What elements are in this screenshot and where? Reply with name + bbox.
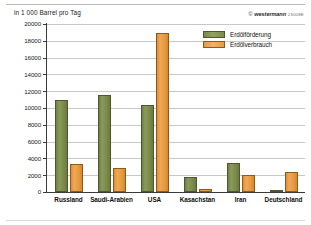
y-tick-label: 20000 xyxy=(24,20,41,27)
x-axis-category-labels: RusslandSaudi-ArabienUSAKasachstanIranDe… xyxy=(47,196,305,212)
x-axis-label: Deutschland xyxy=(262,196,305,203)
x-axis-label: Iran xyxy=(219,196,262,203)
bar-production[interactable] xyxy=(184,177,197,192)
gridline xyxy=(47,142,305,143)
x-axis-label: Saudi-Arabien xyxy=(90,196,133,203)
y-tick-label: 6000 xyxy=(28,138,41,145)
bottom-divider xyxy=(6,220,305,221)
bar-group xyxy=(141,24,169,192)
x-axis-label: Kasachstan xyxy=(176,196,219,203)
x-axis-label: USA xyxy=(133,196,176,203)
gridline xyxy=(47,175,305,176)
gridline xyxy=(47,91,305,92)
bar-consumption[interactable] xyxy=(242,175,255,192)
bar-production[interactable] xyxy=(227,163,240,192)
gridline xyxy=(47,58,305,59)
legend-swatch-production xyxy=(203,31,225,39)
y-tick-label: 8000 xyxy=(28,121,41,128)
figure-code: 23008E xyxy=(288,12,304,17)
y-tick-label: 14000 xyxy=(24,71,41,78)
gridline xyxy=(47,24,305,25)
publisher-name: westermann xyxy=(254,11,286,17)
gridline xyxy=(47,192,305,193)
bar-consumption[interactable] xyxy=(113,168,126,192)
bar-consumption[interactable] xyxy=(285,172,298,192)
bar-consumption[interactable] xyxy=(156,33,169,192)
legend-label-consumption: Erdölverbrauch xyxy=(230,41,272,48)
legend-item-consumption: Erdölverbrauch xyxy=(203,40,272,49)
bar-production[interactable] xyxy=(141,105,154,192)
gridline xyxy=(47,108,305,109)
bar-consumption[interactable] xyxy=(70,164,83,192)
y-tick-label: 4000 xyxy=(28,155,41,162)
y-tick-label: 0 xyxy=(38,188,41,195)
gridline xyxy=(47,125,305,126)
legend-swatch-consumption xyxy=(203,41,225,49)
y-tick-label: 12000 xyxy=(24,88,41,95)
chart-legend: Erdölförderung Erdölverbrauch xyxy=(203,30,303,52)
bar-group xyxy=(98,24,126,192)
y-tick-label: 2000 xyxy=(28,172,41,179)
x-axis-label: Russland xyxy=(47,196,90,203)
bar-production[interactable] xyxy=(55,100,68,192)
bar-production[interactable] xyxy=(98,95,111,192)
publisher-credit: © westermann 23008E xyxy=(249,11,304,17)
bar-group xyxy=(55,24,83,192)
y-tick-label: 10000 xyxy=(24,104,41,111)
y-tick-label: 16000 xyxy=(24,54,41,61)
bar-consumption[interactable] xyxy=(199,189,212,192)
gridline xyxy=(47,158,305,159)
y-axis-labels: 0200040006000800010000120001400016000180… xyxy=(0,0,41,225)
copyright-icon: © xyxy=(249,11,253,17)
chart-figure: in 1 000 Barrel pro Tag © westermann 230… xyxy=(0,0,311,225)
top-divider xyxy=(6,4,305,5)
bar-production[interactable] xyxy=(270,190,283,192)
y-tick-label: 18000 xyxy=(24,37,41,44)
legend-label-production: Erdölförderung xyxy=(230,31,271,38)
legend-item-production: Erdölförderung xyxy=(203,30,271,39)
gridline xyxy=(47,74,305,75)
